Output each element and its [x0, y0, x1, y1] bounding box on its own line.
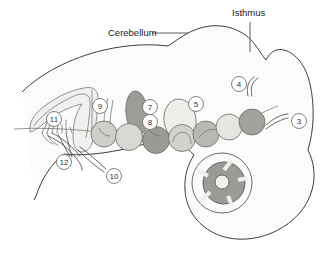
label-cerebellum: Cerebellum — [108, 27, 157, 38]
callout-7-number: 7 — [148, 103, 153, 112]
nucleus-6 — [216, 114, 242, 140]
nucleus-3 — [143, 127, 170, 154]
nucleus-4 — [169, 125, 196, 152]
callout-10-number: 10 — [110, 172, 119, 181]
brainstem-cerebellum-diagram: Cerebellum Isthmus 3 4 5 7 8 9 10 — [0, 0, 330, 257]
callout-11[interactable]: 11 — [47, 112, 62, 127]
anatomical-figure: Cerebellum Isthmus 3 4 5 7 8 9 10 — [0, 0, 330, 257]
callout-5-number: 5 — [194, 100, 199, 109]
callout-11-number: 11 — [50, 115, 59, 124]
nucleus-7 — [239, 109, 265, 135]
callout-3[interactable]: 3 — [292, 114, 307, 129]
nucleus-5 — [193, 121, 219, 147]
callout-8-number: 8 — [148, 118, 153, 127]
callout-9-number: 9 — [98, 102, 103, 111]
label-isthmus: Isthmus — [232, 7, 266, 18]
callout-12-number: 12 — [60, 158, 69, 167]
callout-12[interactable]: 12 — [57, 155, 72, 170]
callout-8[interactable]: 8 — [143, 115, 158, 130]
callout-9[interactable]: 9 — [93, 99, 108, 114]
callout-4[interactable]: 4 — [232, 77, 247, 92]
callout-7[interactable]: 7 — [143, 100, 158, 115]
cochlea-center — [215, 175, 229, 189]
callout-4-number: 4 — [237, 80, 242, 89]
cochlea-segment-divider-2 — [238, 178, 248, 180]
nucleus-2 — [116, 124, 143, 151]
callout-10[interactable]: 10 — [107, 169, 122, 184]
callout-3-number: 3 — [297, 117, 302, 126]
nucleus-1 — [91, 121, 117, 147]
callout-5[interactable]: 5 — [189, 97, 204, 112]
